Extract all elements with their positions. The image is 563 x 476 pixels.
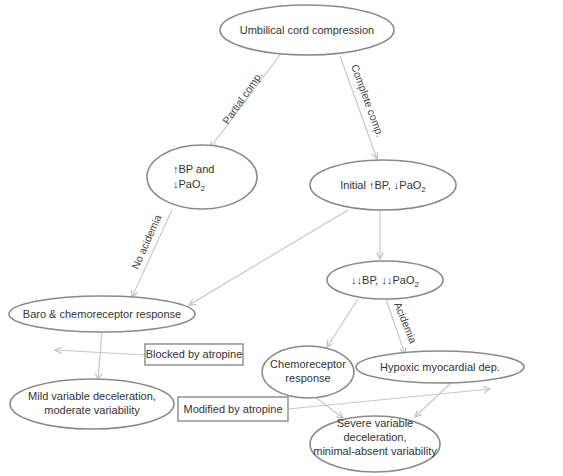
edge-label-complete: Complete comp. [349, 63, 386, 139]
flow-diagram: Partial comp. Complete comp. No acidemia… [0, 0, 563, 476]
node-baro-label: Baro & chemoreceptor response [23, 308, 181, 320]
node-chemo-line2: response [285, 372, 330, 384]
box-blocked: Blocked by atropine [145, 344, 243, 365]
box-modified-label: Modified by atropine [183, 403, 282, 415]
node-chemo: Chemoreceptor response [262, 346, 354, 398]
node-root-label: Umbilical cord compression [240, 24, 375, 36]
node-mild-line1: Mild variable deceleration, [28, 390, 156, 402]
node-root: Umbilical cord compression [220, 5, 394, 55]
node-hypoxic: Hypoxic myocardial dep. [356, 351, 524, 383]
node-severe: Severe variable deceleration, minimal-ab… [310, 416, 440, 472]
edge-baro-to-mild [98, 330, 102, 380]
edge-label-partial: Partial comp. [220, 69, 265, 126]
node-mild-line2: moderate variability [44, 404, 140, 416]
node-double-down: ↓↓BP, ↓↓PaO2 [327, 261, 443, 299]
edge-label-acidemia: Acidemia [392, 300, 419, 345]
node-baro: Baro & chemoreceptor response [9, 296, 195, 332]
node-severe-line3: minimal-absent variability [313, 445, 437, 457]
edge-double-down-to-chemo [327, 299, 358, 347]
node-chemo-line1: Chemoreceptor [270, 358, 346, 370]
node-mild: Mild variable deceleration, moderate var… [10, 379, 174, 429]
edge-hypoxic-to-severe [415, 378, 456, 417]
edge-label-no-acidemia: No acidemia [129, 212, 164, 270]
box-blocked-label: Blocked by atropine [146, 348, 243, 360]
box-modified: Modified by atropine [178, 397, 288, 421]
node-severe-line1: Severe variable [337, 417, 413, 429]
double-down-arrow-icon: ↓↓ [381, 274, 392, 286]
node-severe-line2: deceleration, [344, 431, 407, 443]
node-hypoxic-label: Hypoxic myocardial dep. [380, 361, 500, 373]
edge-chemo-to-severe [315, 397, 343, 418]
edge-initial-to-baro [189, 210, 348, 305]
node-partial-line1: ↑BP and [173, 163, 214, 175]
node-initial: Initial ↑BP, ↓PaO2 [310, 160, 456, 210]
double-down-arrow-icon: ↓↓ [351, 274, 362, 286]
node-partial: ↑BP and ↓PaO2 [147, 145, 257, 209]
